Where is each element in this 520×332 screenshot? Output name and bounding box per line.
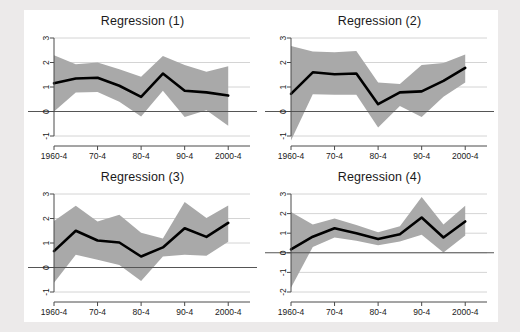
y-tick-label-1: 1 xyxy=(278,84,288,89)
x-tick-label-1: 70-4 xyxy=(326,151,343,161)
panel-2-svg: 3210-11960-470-480-490-42000-4 xyxy=(261,32,498,166)
x-tick-label-3: 90-4 xyxy=(413,151,430,161)
panel-3-plot: 3210-11960-470-480-490-42000-4 xyxy=(24,188,261,322)
confidence-band xyxy=(291,197,465,288)
x-tick-label-3: 90-4 xyxy=(413,307,430,317)
panel-2-plot: 3210-11960-470-480-490-42000-4 xyxy=(261,32,498,166)
y-tick-label-0: 0 xyxy=(278,109,288,114)
x-tick-label-2: 80-4 xyxy=(133,151,150,161)
y-tick-label-2: 2 xyxy=(278,60,288,65)
figure-root: Regression (1) 3210-11960-470-480-490-42… xyxy=(0,0,520,332)
panel-regression-4: Regression (4) 3210-1-21960-470-480-490-… xyxy=(261,166,498,322)
y-tick-label--2: -2 xyxy=(278,288,288,296)
x-tick-label-0: 1960-4 xyxy=(41,307,68,317)
x-tick-label-4: 2000-4 xyxy=(452,307,479,317)
panel-4-title: Regression (4) xyxy=(261,170,498,184)
y-tick-label-3: 3 xyxy=(41,35,51,40)
y-tick-label--1: -1 xyxy=(41,288,51,296)
panel-2-title: Regression (2) xyxy=(261,14,498,28)
panel-4-plot: 3210-1-21960-470-480-490-42000-4 xyxy=(261,188,498,322)
x-tick-label-3: 90-4 xyxy=(176,307,193,317)
x-tick-label-4: 2000-4 xyxy=(452,151,479,161)
y-tick-label-0: 0 xyxy=(41,265,51,270)
x-tick-label-1: 70-4 xyxy=(89,307,106,317)
x-tick-label-2: 80-4 xyxy=(133,307,150,317)
panel-3-svg: 3210-11960-470-480-490-42000-4 xyxy=(24,188,261,322)
confidence-band xyxy=(54,202,228,283)
y-tick-label-1: 1 xyxy=(41,240,51,245)
panel-1-plot: 3210-11960-470-480-490-42000-4 xyxy=(24,32,261,166)
y-tick-label-2: 2 xyxy=(41,216,51,221)
x-tick-label-1: 70-4 xyxy=(326,307,343,317)
panel-regression-2: Regression (2) 3210-11960-470-480-490-42… xyxy=(261,10,498,166)
x-tick-label-0: 1960-4 xyxy=(278,307,305,317)
confidence-band xyxy=(54,55,228,126)
y-tick-label-2: 2 xyxy=(41,60,51,65)
y-tick-label-1: 1 xyxy=(41,84,51,89)
y-tick-label-3: 3 xyxy=(41,191,51,196)
y-tick-label-3: 3 xyxy=(278,191,288,196)
x-tick-label-0: 1960-4 xyxy=(41,151,68,161)
x-tick-label-4: 2000-4 xyxy=(215,151,242,161)
y-tick-label-0: 0 xyxy=(278,250,288,255)
panel-4-svg: 3210-1-21960-470-480-490-42000-4 xyxy=(261,188,498,322)
x-tick-label-0: 1960-4 xyxy=(278,151,305,161)
panel-regression-3: Regression (3) 3210-11960-470-480-490-42… xyxy=(24,166,261,322)
y-tick-label-0: 0 xyxy=(41,109,51,114)
x-tick-label-4: 2000-4 xyxy=(215,307,242,317)
x-tick-label-2: 80-4 xyxy=(370,151,387,161)
figure-card: Regression (1) 3210-11960-470-480-490-42… xyxy=(24,10,498,322)
panel-regression-1: Regression (1) 3210-11960-470-480-490-42… xyxy=(24,10,261,166)
y-tick-label--1: -1 xyxy=(278,132,288,140)
y-tick-label-3: 3 xyxy=(278,35,288,40)
y-tick-label-2: 2 xyxy=(278,211,288,216)
panel-1-svg: 3210-11960-470-480-490-42000-4 xyxy=(24,32,261,166)
panel-1-title: Regression (1) xyxy=(24,14,261,28)
x-tick-label-1: 70-4 xyxy=(89,151,106,161)
confidence-band xyxy=(291,46,465,140)
y-tick-label-1: 1 xyxy=(278,231,288,236)
x-tick-label-3: 90-4 xyxy=(176,151,193,161)
x-tick-label-2: 80-4 xyxy=(370,307,387,317)
y-tick-label--1: -1 xyxy=(278,268,288,276)
panel-3-title: Regression (3) xyxy=(24,170,261,184)
y-tick-label--1: -1 xyxy=(41,132,51,140)
